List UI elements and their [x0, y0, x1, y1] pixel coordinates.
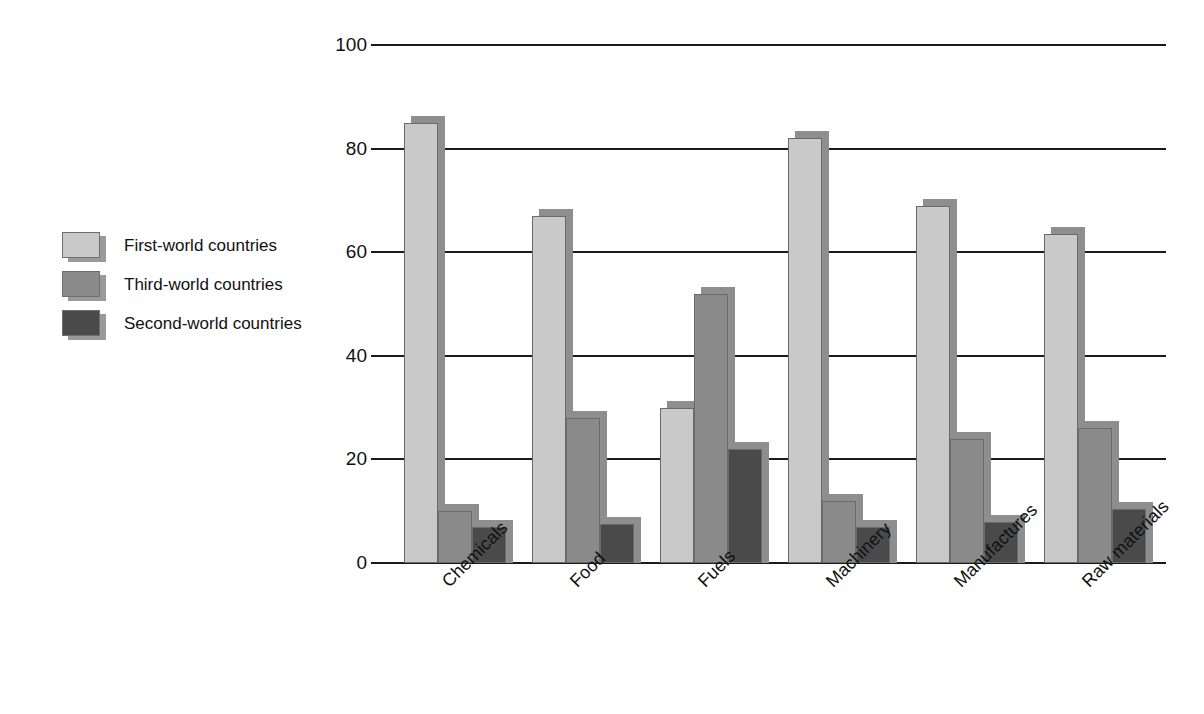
y-axis-tick — [371, 355, 387, 357]
bar — [660, 408, 694, 563]
y-tick-label: 80 — [346, 139, 367, 158]
legend-label: Third-world countries — [124, 274, 283, 296]
y-tick-label-holder: 20 — [303, 449, 367, 468]
bar-face — [788, 138, 822, 563]
legend-swatch-face — [62, 310, 100, 336]
legend-swatch-face — [62, 271, 100, 297]
bar-chart: First-world countries Third-world countr… — [0, 0, 1204, 714]
y-tick-label: 100 — [335, 35, 367, 54]
bar — [916, 206, 950, 563]
plot-area: 100806040200 — [387, 45, 1166, 563]
bar — [694, 294, 728, 563]
bar-face — [950, 439, 984, 563]
y-axis-tick — [371, 44, 387, 46]
bar-face — [566, 418, 600, 563]
y-axis-tick — [371, 251, 387, 253]
y-axis-tick — [371, 148, 387, 150]
y-tick-label: 60 — [346, 242, 367, 261]
bar-face — [694, 294, 728, 563]
bar — [404, 123, 438, 563]
legend-label: Second-world countries — [124, 313, 302, 335]
legend-item: Third-world countries — [62, 271, 337, 310]
legend-swatch-face — [62, 232, 100, 258]
bar-face — [532, 216, 566, 563]
bar-face — [404, 123, 438, 563]
y-tick-label: 40 — [346, 346, 367, 365]
legend-label: First-world countries — [124, 235, 277, 257]
bar — [566, 418, 600, 563]
chart-legend: First-world countries Third-world countr… — [62, 232, 337, 349]
y-axis-tick — [371, 458, 387, 460]
y-tick-label: 0 — [356, 553, 367, 572]
bar-face — [916, 206, 950, 563]
bar — [532, 216, 566, 563]
y-tick-label-holder: 100 — [303, 35, 367, 54]
bar — [1044, 234, 1078, 563]
legend-swatch-first-world — [62, 232, 106, 262]
y-tick-label-holder: 80 — [303, 139, 367, 158]
bar-face — [1078, 428, 1112, 563]
bar — [728, 449, 762, 563]
bar — [788, 138, 822, 563]
legend-swatch-second-world — [62, 310, 106, 340]
y-tick-label: 20 — [346, 449, 367, 468]
legend-swatch-third-world — [62, 271, 106, 301]
gridline — [387, 44, 1166, 46]
bar-face — [1044, 234, 1078, 563]
bar-face — [728, 449, 762, 563]
bar — [1078, 428, 1112, 563]
gridline — [387, 148, 1166, 150]
bar — [950, 439, 984, 563]
y-tick-label-holder: 60 — [303, 242, 367, 261]
y-tick-label-holder: 0 — [303, 553, 367, 572]
legend-item: Second-world countries — [62, 310, 337, 349]
y-tick-label-holder: 40 — [303, 346, 367, 365]
y-axis-tick — [371, 562, 387, 564]
bar-face — [660, 408, 694, 563]
x-axis-labels: ChemicalsFoodFuelsMachineryManufacturesR… — [387, 565, 1187, 705]
legend-item: First-world countries — [62, 232, 337, 271]
